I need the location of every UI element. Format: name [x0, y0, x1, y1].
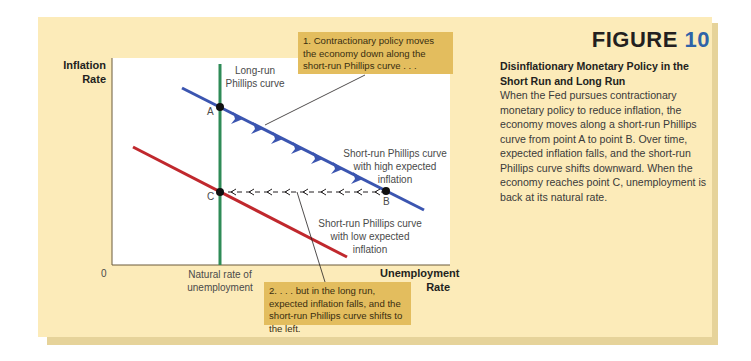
- point-c-label: C: [207, 191, 214, 202]
- figure-number: 10: [685, 27, 710, 52]
- sr-low-label-line2: with low expected: [331, 231, 410, 242]
- sr-low-label-line3: inflation: [353, 244, 387, 255]
- y-axis-label: Inflation Rate: [58, 58, 106, 86]
- y-axis-label-line2: Rate: [82, 73, 106, 85]
- long-run-label-line1: Long-run: [235, 65, 275, 76]
- sr-high-curve-label: Short-run Phillips curve with high expec…: [340, 147, 450, 186]
- sr-high-label-line3: inflation: [378, 174, 412, 185]
- x-axis-label-line1: Unemployment: [380, 267, 459, 279]
- point-a-marker: [216, 103, 224, 111]
- figure-title: FIGURE 10: [540, 27, 710, 53]
- sr-low-label-line1: Short-run Phillips curve: [318, 218, 421, 229]
- long-run-curve-label: Long-run Phillips curve: [225, 64, 285, 90]
- point-b-label: B: [383, 196, 390, 207]
- sr-high-label-line1: Short-run Phillips curve: [343, 148, 446, 159]
- figure-caption: Disinflationary Monetary Policy in the S…: [500, 59, 715, 204]
- sr-high-label-line2: with high expected: [354, 161, 437, 172]
- shift-arrowheads: [231, 189, 380, 195]
- origin-label: 0: [101, 268, 107, 279]
- callout-2: 2. . . . but in the long run, expected i…: [264, 282, 411, 325]
- y-axis-label-line1: Inflation: [63, 59, 106, 71]
- natural-rate-line2: unemployment: [187, 282, 253, 293]
- natural-rate-line1: Natural rate of: [188, 269, 251, 280]
- natural-rate-label: Natural rate of unemployment: [185, 268, 255, 294]
- sr-low-curve-label: Short-run Phillips curve with low expect…: [315, 217, 425, 256]
- caption-body: When the Fed pursues contractionary mone…: [500, 89, 706, 203]
- callout-1: 1. Contractionary policy moves the econo…: [298, 32, 453, 74]
- caption-title: Disinflationary Monetary Policy in the S…: [500, 59, 715, 88]
- point-c-marker: [216, 188, 224, 196]
- point-b-marker: [382, 187, 390, 195]
- figure-label: FIGURE: [592, 27, 678, 52]
- point-a-label: A: [207, 106, 214, 117]
- long-run-label-line2: Phillips curve: [226, 78, 285, 89]
- x-axis-label-line2: Rate: [426, 281, 450, 293]
